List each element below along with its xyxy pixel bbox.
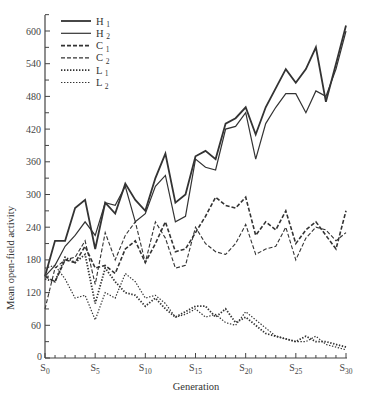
y-axis-title: Mean open-field activity — [5, 205, 16, 310]
y-tick-label: 0 — [37, 351, 42, 362]
legend-label-l2: L 2 — [96, 77, 109, 91]
y-ticks: 060120180240300360420480540600 — [26, 15, 50, 362]
x-axis-title: Generation — [173, 381, 220, 392]
y-tick-label: 120 — [26, 287, 41, 298]
plot-series — [45, 26, 346, 350]
x-tick-label: S5 — [91, 362, 101, 376]
series-line-h2 — [45, 31, 346, 276]
x-tick-label: S15 — [189, 362, 202, 376]
series-line-h1 — [45, 26, 346, 277]
x-tick-label: S25 — [289, 362, 302, 376]
x-ticks: S0S5S10S15S20S25S30 — [40, 353, 352, 376]
y-tick-label: 300 — [26, 189, 41, 200]
x-tick-label: S10 — [139, 362, 152, 376]
y-tick-label: 600 — [26, 26, 41, 37]
x-tick-label: S20 — [239, 362, 252, 376]
y-tick-label: 240 — [26, 222, 41, 233]
y-tick-label: 480 — [26, 91, 41, 102]
series-line-l1 — [45, 254, 346, 347]
series-line-c2 — [45, 222, 346, 309]
legend: H 1H 2C 1C 2L 1L 2 — [61, 16, 110, 91]
line-chart: 060120180240300360420480540600 S0S5S10S1… — [0, 0, 367, 398]
y-tick-label: 540 — [26, 58, 41, 69]
series-line-c1 — [45, 197, 346, 282]
y-tick-label: 360 — [26, 156, 41, 167]
y-tick-label: 60 — [31, 320, 41, 331]
y-tick-label: 180 — [26, 254, 41, 265]
x-tick-label: S30 — [339, 362, 352, 376]
y-tick-label: 420 — [26, 124, 41, 135]
x-tick-label: S0 — [40, 362, 50, 376]
